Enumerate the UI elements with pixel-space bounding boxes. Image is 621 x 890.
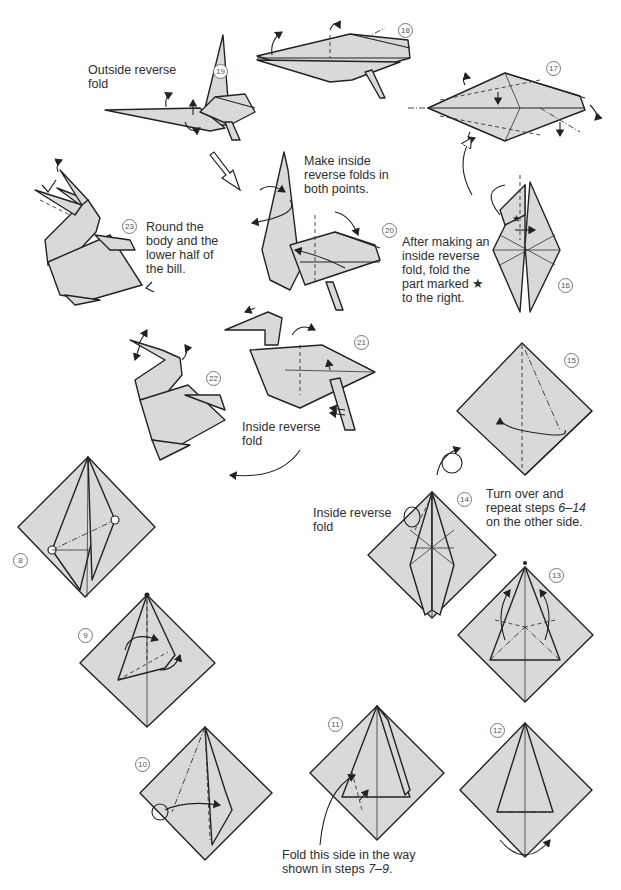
step-number-14: 14 <box>457 492 472 507</box>
caption-outside-reverse-fold: Outside reverse fold <box>88 63 176 91</box>
step-16-figure: ★ <box>491 175 560 312</box>
step-number-22: 22 <box>206 371 221 386</box>
step-number-11: 11 <box>328 717 343 732</box>
step-8-figure <box>18 457 155 597</box>
caption-make-inside-reverse-folds: Make inside reverse folds in both points… <box>304 154 389 196</box>
step-13-figure <box>458 561 593 702</box>
caption-inside-reverse-fold-14: Inside reverse fold <box>313 506 392 534</box>
step-number-20: 20 <box>382 223 397 238</box>
caption-turn-over-and-repeat: Turn over and repeat steps 6–14 on the o… <box>486 487 586 529</box>
step-10-figure <box>140 727 272 860</box>
step-22-figure <box>130 330 225 460</box>
step-17-figure <box>408 73 597 141</box>
caption-after-making-inside-reverse: After making an inside reverse fold, fol… <box>402 235 490 305</box>
step-number-9: 9 <box>78 628 93 643</box>
star-icon: ★ <box>512 213 521 224</box>
sequence-arrow-icon <box>210 152 240 190</box>
caption-round-the-body: Round the body and the lower half of the… <box>146 220 218 276</box>
step-number-10: 10 <box>135 757 150 772</box>
step-number-15: 15 <box>564 353 579 368</box>
step-23-figure <box>35 160 154 305</box>
step-number-19: 19 <box>213 64 228 79</box>
step-21-figure <box>225 308 375 430</box>
step-number-12: 12 <box>490 723 505 738</box>
step-12-figure <box>460 723 592 857</box>
step-number-13: 13 <box>549 568 564 583</box>
step-number-8: 8 <box>13 553 28 568</box>
origami-diagram-page: ★ <box>0 0 621 890</box>
step-18-figure <box>257 23 410 98</box>
caption-inside-reverse-fold-22: Inside reverse fold <box>242 420 321 448</box>
step-9-figure <box>80 593 215 728</box>
step-number-23: 23 <box>122 219 137 234</box>
caption-fold-this-side: Fold this side in the way shown in steps… <box>282 848 415 876</box>
step-number-18: 18 <box>398 23 413 38</box>
turn-over-icon <box>437 448 462 475</box>
step-number-21: 21 <box>354 335 369 350</box>
step-number-17: 17 <box>546 61 561 76</box>
step-number-16: 16 <box>558 278 573 293</box>
